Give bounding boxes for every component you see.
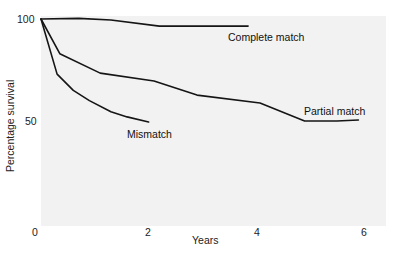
x-tick-2: 2 — [145, 226, 151, 238]
x-axis-title: Years — [192, 234, 218, 246]
x-tick-6: 6 — [361, 226, 367, 238]
survival-chart: 100 50 0 2 4 6 Years Percentage survival… — [0, 0, 398, 256]
y-axis-title: Percentage survival — [4, 80, 16, 172]
complete-match-label: Complete match — [228, 31, 305, 43]
x-tick-0: 0 — [32, 226, 38, 238]
mismatch-label: Mismatch — [127, 128, 172, 140]
x-tick-4: 4 — [254, 226, 260, 238]
partial-match-label: Partial match — [304, 105, 365, 117]
y-tick-100: 100 — [17, 13, 35, 25]
y-tick-50: 50 — [25, 115, 37, 127]
